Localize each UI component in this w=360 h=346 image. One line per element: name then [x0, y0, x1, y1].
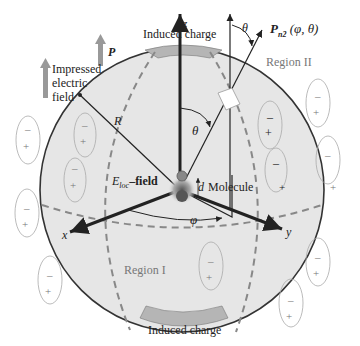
minus-sign: – [267, 111, 273, 123]
plus-sign: + [22, 219, 28, 230]
minus-sign: – [24, 203, 30, 214]
radius-label: R [114, 115, 121, 127]
impressed-field-arrow-head [40, 58, 51, 68]
pn2-symbol: P [270, 21, 278, 36]
region1-label: Region I [124, 264, 166, 276]
plus-sign: + [80, 136, 86, 147]
z-axis-label: z [183, 18, 187, 29]
y-axis-label: y [286, 226, 291, 238]
plus-sign: + [279, 182, 285, 193]
minus-sign: – [25, 124, 31, 135]
phi-label: φ [190, 213, 197, 226]
impressed-field-arrow-shaft [43, 68, 48, 98]
impressed-line1: Impressed [52, 62, 101, 76]
minus-sign: – [315, 91, 321, 102]
theta-inner-label: θ [192, 124, 198, 137]
impressed-line3: field [52, 90, 101, 104]
plus-sign: + [70, 180, 76, 191]
x-axis-label: x [62, 229, 67, 241]
diagram-canvas [0, 0, 360, 346]
theta-top-label: θ [242, 22, 248, 34]
minus-sign: – [325, 150, 331, 161]
minus-sign: – [273, 157, 279, 169]
molecule-positive [176, 190, 188, 202]
plus-sign: + [313, 268, 319, 279]
impressed-field-label: Impressed electric field [52, 62, 101, 104]
polarization-arrow-head [95, 34, 106, 44]
minus-sign: – [288, 295, 294, 306]
eloc-field-label: Eloc–field [112, 175, 158, 190]
pn2-subscript: n2 [278, 30, 286, 39]
plus-sign: + [206, 272, 212, 283]
plus-sign: + [23, 141, 29, 152]
minus-sign: – [82, 120, 88, 131]
plus-sign: + [286, 311, 292, 322]
minus-sign: – [315, 252, 321, 263]
plus-sign: + [265, 127, 272, 139]
molecule-negative [177, 171, 187, 181]
induced-charge-top-label: Induced charge [143, 28, 216, 40]
impressed-line2: electric [52, 76, 101, 90]
induced-charge-bottom-label: Induced charge [148, 324, 221, 336]
pn2-label: Pn2 (φ, θ) [270, 22, 318, 39]
plus-sign: + [313, 107, 319, 118]
minus-sign: – [208, 256, 214, 267]
eloc-subscript: loc [119, 181, 129, 190]
eloc-suffix: –field [129, 174, 158, 188]
plus-sign: + [45, 286, 51, 297]
molecule-label: Molecule [208, 181, 253, 193]
minus-sign: – [72, 163, 78, 174]
plus-sign: + [330, 182, 336, 193]
pn2-args: (φ, θ) [290, 21, 319, 36]
minus-sign: – [47, 270, 53, 281]
d-label: d [198, 181, 204, 193]
polarization-label: P [108, 46, 115, 58]
region2-label: Region II [266, 56, 312, 68]
